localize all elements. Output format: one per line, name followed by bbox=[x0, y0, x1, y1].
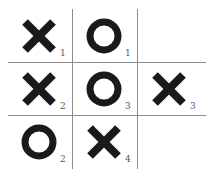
move-number: 1 bbox=[60, 48, 66, 58]
x-mark-icon bbox=[20, 17, 58, 55]
board-cell: 1 bbox=[73, 10, 137, 62]
board-cell: 1 bbox=[8, 10, 72, 62]
move-number: 3 bbox=[190, 101, 196, 111]
o-mark-icon bbox=[20, 123, 58, 161]
board-cell: 3 bbox=[73, 63, 137, 115]
board-cell: 4 bbox=[73, 116, 137, 168]
move-number: 2 bbox=[60, 154, 66, 164]
board-cell: 3 bbox=[138, 63, 206, 115]
move-number: 3 bbox=[125, 101, 131, 111]
board-cell bbox=[138, 116, 206, 168]
board-cell bbox=[138, 10, 206, 62]
move-number: 2 bbox=[60, 101, 66, 111]
tic-tac-toe-board: 1123324 bbox=[0, 0, 215, 178]
board-cell: 2 bbox=[8, 116, 72, 168]
o-mark-icon bbox=[85, 17, 123, 55]
x-mark-icon bbox=[20, 70, 58, 108]
move-number: 1 bbox=[125, 48, 131, 58]
x-mark-icon bbox=[85, 123, 123, 161]
move-number: 4 bbox=[125, 154, 131, 164]
o-mark-icon bbox=[85, 70, 123, 108]
board-cell: 2 bbox=[8, 63, 72, 115]
x-mark-icon bbox=[150, 70, 188, 108]
